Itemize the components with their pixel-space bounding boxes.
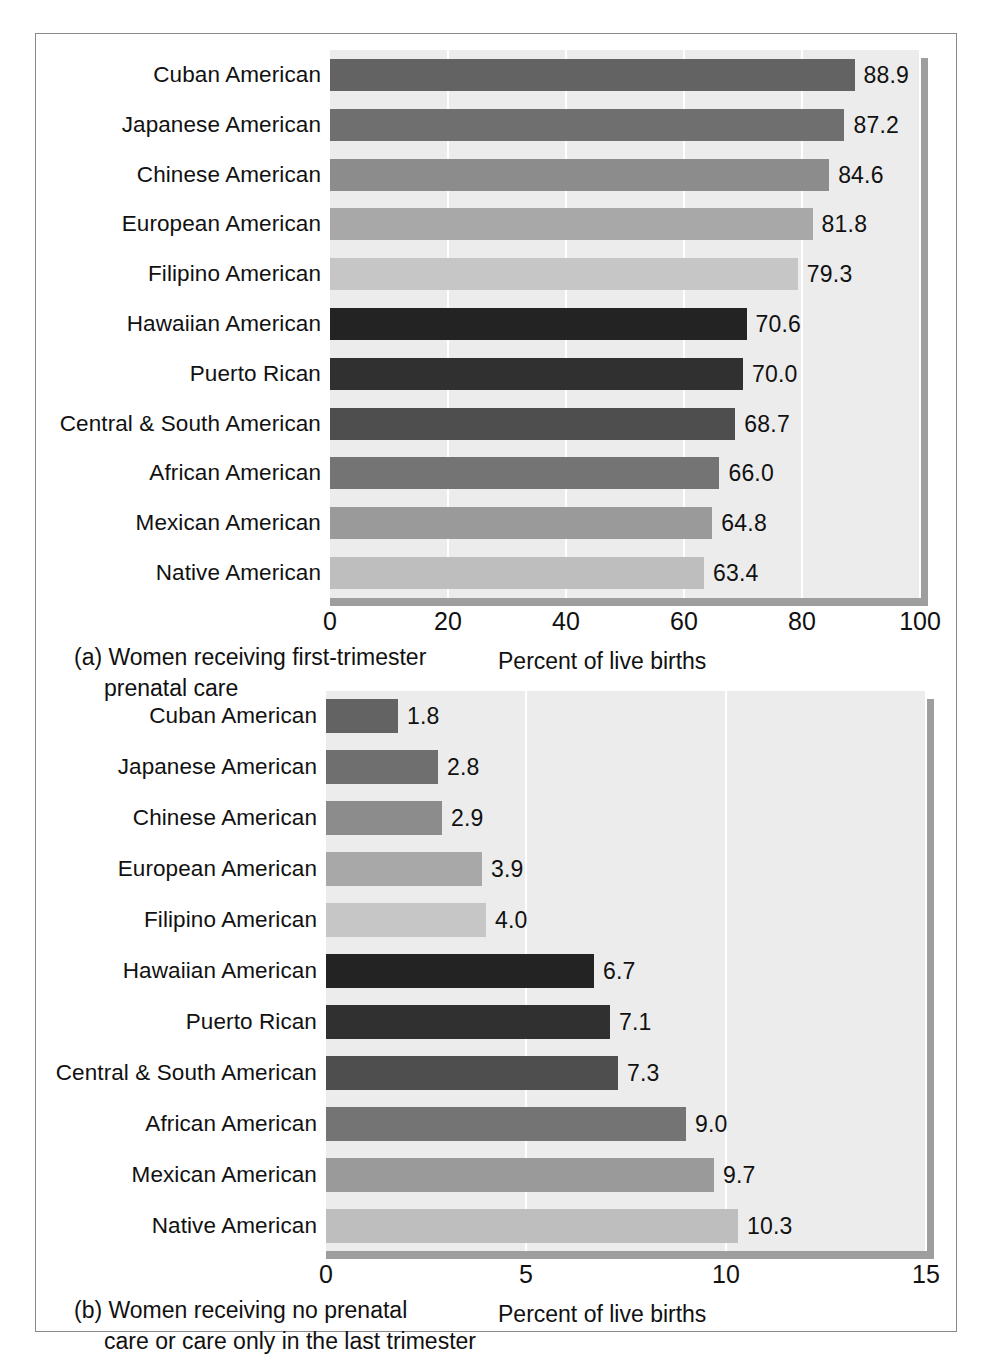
plot-shadow-bottom-b bbox=[326, 1251, 934, 1259]
bar-value-label: 1.8 bbox=[407, 703, 440, 730]
chart-panel-b: Percent of live births (b) Women receivi… bbox=[36, 658, 956, 1318]
x-tick-label: 10 bbox=[712, 1260, 740, 1289]
bar bbox=[326, 801, 442, 835]
caption-b-line1: (b) Women receiving no prenatal bbox=[74, 1295, 407, 1326]
bar bbox=[326, 1158, 714, 1192]
bar bbox=[330, 258, 798, 290]
bar-value-label: 2.8 bbox=[447, 754, 480, 781]
x-tick-label: 15 bbox=[912, 1260, 940, 1289]
category-label: Central & South American bbox=[56, 1060, 317, 1086]
bar bbox=[326, 750, 438, 784]
category-label: Mexican American bbox=[132, 1162, 317, 1188]
category-label: Native American bbox=[156, 560, 321, 586]
bar bbox=[330, 208, 813, 240]
bar-value-label: 64.8 bbox=[721, 510, 767, 537]
plot-shadow-bottom-a bbox=[330, 598, 928, 606]
category-label: European American bbox=[118, 856, 317, 882]
bar bbox=[326, 954, 594, 988]
x-tick-label: 100 bbox=[899, 607, 941, 636]
category-label: African American bbox=[149, 460, 321, 486]
bar bbox=[330, 557, 704, 589]
plot-shadow-right-b bbox=[926, 699, 934, 1259]
bar bbox=[326, 852, 482, 886]
bar-value-label: 70.6 bbox=[756, 311, 802, 338]
category-label: Chinese American bbox=[133, 805, 317, 831]
bar bbox=[326, 1209, 738, 1243]
bar-value-label: 2.9 bbox=[451, 805, 484, 832]
bar bbox=[326, 903, 486, 937]
category-label: Hawaiian American bbox=[127, 311, 321, 337]
bar bbox=[330, 358, 743, 390]
bar bbox=[326, 699, 398, 733]
category-label: Hawaiian American bbox=[123, 958, 317, 984]
gridline bbox=[919, 50, 921, 598]
bar bbox=[330, 457, 719, 489]
category-label: Japanese American bbox=[122, 112, 321, 138]
x-tick-label: 20 bbox=[434, 607, 462, 636]
category-label: Chinese American bbox=[137, 162, 321, 188]
x-axis-title-b: Percent of live births bbox=[498, 1301, 706, 1328]
category-label: Japanese American bbox=[118, 754, 317, 780]
chart-panel-a: Percent of live births (a) Women receivi… bbox=[36, 34, 956, 674]
category-label: Filipino American bbox=[144, 907, 317, 933]
bar-value-label: 3.9 bbox=[491, 856, 524, 883]
bar-value-label: 63.4 bbox=[713, 560, 759, 587]
bar bbox=[330, 507, 712, 539]
bar-value-label: 84.6 bbox=[838, 161, 884, 188]
category-label: Filipino American bbox=[148, 261, 321, 287]
bar-value-label: 7.3 bbox=[627, 1059, 660, 1086]
category-label: Cuban American bbox=[153, 62, 321, 88]
x-tick-label: 40 bbox=[552, 607, 580, 636]
bar-value-label: 79.3 bbox=[807, 261, 853, 288]
bar bbox=[326, 1107, 686, 1141]
caption-b-line2: care or care only in the last trimester bbox=[104, 1326, 476, 1357]
category-label: Native American bbox=[152, 1213, 317, 1239]
x-tick-label: 80 bbox=[788, 607, 816, 636]
bar bbox=[330, 59, 855, 91]
category-label: Central & South American bbox=[60, 411, 321, 437]
bar bbox=[330, 408, 735, 440]
figure-frame: Percent of live births (a) Women receivi… bbox=[35, 33, 957, 1332]
bar-value-label: 9.7 bbox=[723, 1161, 756, 1188]
bar-value-label: 70.0 bbox=[752, 360, 798, 387]
x-tick-label: 5 bbox=[519, 1260, 533, 1289]
bar-value-label: 68.7 bbox=[744, 410, 790, 437]
category-label: African American bbox=[145, 1111, 317, 1137]
bar-value-label: 7.1 bbox=[619, 1008, 652, 1035]
bar bbox=[326, 1005, 610, 1039]
bar-value-label: 87.2 bbox=[853, 111, 899, 138]
bar-value-label: 10.3 bbox=[747, 1212, 793, 1239]
bar bbox=[330, 109, 844, 141]
bar-value-label: 66.0 bbox=[728, 460, 774, 487]
bar-value-label: 9.0 bbox=[695, 1110, 728, 1137]
category-label: Cuban American bbox=[149, 703, 317, 729]
bar bbox=[330, 159, 829, 191]
x-tick-label: 60 bbox=[670, 607, 698, 636]
category-label: Puerto Rican bbox=[190, 361, 321, 387]
x-tick-label: 0 bbox=[319, 1260, 333, 1289]
category-label: Mexican American bbox=[136, 510, 321, 536]
gridline bbox=[925, 691, 927, 1251]
plot-shadow-right-a bbox=[920, 58, 928, 606]
bar-value-label: 6.7 bbox=[603, 958, 636, 985]
bar bbox=[326, 1056, 618, 1090]
bar-value-label: 88.9 bbox=[864, 61, 910, 88]
bar-value-label: 4.0 bbox=[495, 907, 528, 934]
category-label: Puerto Rican bbox=[186, 1009, 317, 1035]
x-tick-label: 0 bbox=[323, 607, 337, 636]
bar-value-label: 81.8 bbox=[822, 211, 868, 238]
bar bbox=[330, 308, 747, 340]
category-label: European American bbox=[122, 211, 321, 237]
